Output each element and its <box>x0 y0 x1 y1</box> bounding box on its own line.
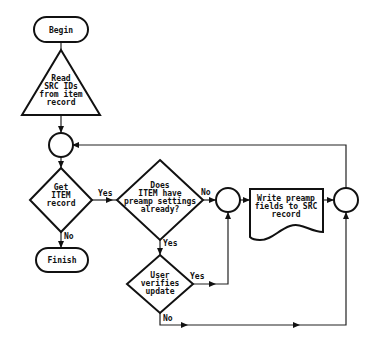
arrow-right-icon <box>209 197 216 203</box>
decision-has-preamp-settings: Does ITEM have preamp settings already? <box>117 160 203 240</box>
write-line3: record <box>272 210 301 219</box>
has-settings-line4: already? <box>141 205 180 214</box>
arrow-right-icon <box>181 322 188 328</box>
read-label-line4: record <box>47 98 76 107</box>
arrow-right-icon <box>293 322 300 328</box>
node-read-src-ids: Read SRC IDs from item record <box>22 50 100 115</box>
decision-user-verifies-update: User verifies update <box>127 255 193 313</box>
node-write-preamp-fields: Write preamp fields to SRC record <box>250 189 323 240</box>
label-verify-no: No <box>163 314 173 323</box>
verify-line3: update <box>146 287 175 296</box>
arrow-down-icon <box>58 241 64 248</box>
label-get-item-yes: Yes <box>98 189 113 198</box>
label-has-settings-yes: Yes <box>163 239 178 248</box>
get-item-line3: record <box>47 199 76 208</box>
junction-3 <box>334 188 358 212</box>
node-finish: Finish <box>36 248 88 272</box>
arrow-right-icon <box>327 197 334 203</box>
flowchart: Begin Read SRC IDs from item record Get … <box>0 0 374 345</box>
decision-get-item-record: Get ITEM record <box>30 168 92 232</box>
begin-label: Begin <box>49 25 73 35</box>
label-get-item-no: No <box>64 232 74 241</box>
label-verify-yes: Yes <box>190 272 205 281</box>
connector-lines <box>61 42 346 325</box>
arrow-down-icon <box>58 126 64 133</box>
junction-2 <box>216 188 240 212</box>
node-begin: Begin <box>34 17 88 42</box>
finish-label: Finish <box>48 255 77 265</box>
arrow-up-icon <box>225 212 231 219</box>
label-has-settings-no: No <box>201 188 211 197</box>
arrow-right-icon <box>209 281 216 287</box>
arrow-right-icon <box>243 197 250 203</box>
junction-1 <box>49 133 73 157</box>
arrow-up-icon <box>343 212 349 219</box>
